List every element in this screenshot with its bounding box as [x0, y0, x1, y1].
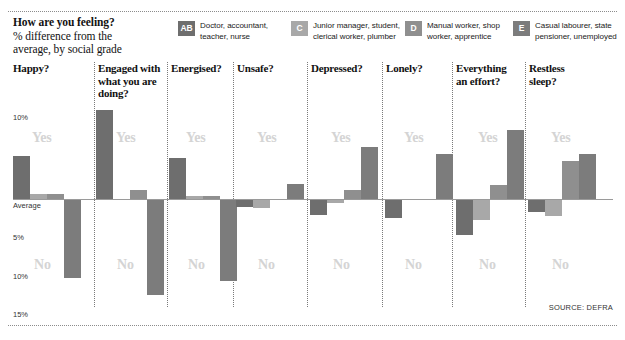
bar-ab	[169, 158, 186, 199]
bar-e	[64, 199, 81, 278]
legend-key-ab: AB	[178, 21, 195, 36]
panel-title-line: an effort?	[456, 75, 500, 87]
page-title: How are you feeling?	[13, 16, 178, 30]
bar-d	[490, 185, 507, 199]
panel-separator	[525, 62, 526, 307]
panel-separator	[382, 62, 383, 307]
bottom-divider	[8, 325, 617, 326]
bar-c	[473, 199, 490, 220]
legend-label-d-line1: Manual worker, shop	[427, 21, 500, 30]
legend-label-c-line1: Junior manager, student,	[313, 21, 400, 30]
bar-d	[562, 161, 579, 199]
legend-item-c[interactable]: C Junior manager, student, clerical work…	[291, 21, 409, 42]
watermark-no: No	[258, 257, 275, 273]
watermark-yes: Yes	[32, 130, 52, 146]
panel-title-line: Energised?	[171, 62, 222, 74]
panel-container: Happy?Engaged withwhat you aredoing?Ener…	[0, 62, 625, 320]
bar-ab	[236, 199, 253, 207]
bar-d	[344, 190, 361, 199]
panel-separator	[307, 62, 308, 307]
legend-label-ab-line2: teacher, nurse	[200, 32, 250, 41]
bar-ab	[456, 199, 473, 235]
legend-key-d: D	[405, 21, 422, 36]
panel-title-line: sleep?	[529, 75, 557, 87]
chart-subtitle-line1: % difference from the	[13, 30, 178, 44]
legend-label-d-line2: worker, apprentice	[427, 32, 491, 41]
legend-label-e-line2: pensioner, unemployed	[535, 32, 617, 41]
legend-item-ab[interactable]: AB Doctor, accountant, teacher, nurse	[178, 21, 296, 42]
bar-e	[361, 147, 378, 199]
source-note: SOURCE: DEFRA	[549, 303, 613, 312]
panel-title-line: Lonely?	[386, 62, 423, 74]
panel-title-line: doing?	[98, 87, 129, 99]
watermark-no: No	[479, 257, 496, 273]
bar-ab	[310, 199, 327, 215]
legend-item-d[interactable]: D Manual worker, shop worker, apprentice	[405, 21, 523, 42]
bar-d	[130, 190, 147, 199]
watermark-no: No	[188, 257, 205, 273]
panel-title-line: what you are	[98, 75, 157, 87]
watermark-no: No	[333, 257, 350, 273]
legend-label-c: Junior manager, student, clerical worker…	[313, 21, 409, 42]
watermark-no: No	[34, 257, 51, 273]
panel-title: Restlesssleep?	[529, 62, 617, 87]
panel-title-line: Restless	[529, 62, 565, 74]
watermark-no: No	[405, 257, 422, 273]
panel-separator	[94, 62, 95, 307]
bar-c	[545, 199, 562, 216]
bar-ab	[13, 156, 30, 199]
legend-key-e: E	[513, 21, 530, 36]
watermark-yes: Yes	[186, 130, 206, 146]
bar-e	[287, 184, 304, 199]
legend-label-d: Manual worker, shop worker, apprentice	[427, 21, 523, 42]
bar-c	[253, 199, 270, 208]
watermark-yes: Yes	[551, 130, 571, 146]
infographic-chart: How are you feeling? % difference from t…	[0, 0, 625, 340]
panel-title: Happy?	[13, 62, 101, 75]
legend-label-c-line2: clerical worker, plumber	[313, 32, 396, 41]
watermark-yes: Yes	[257, 130, 277, 146]
legend-key-c: C	[291, 21, 308, 36]
bar-e	[436, 154, 453, 199]
watermark-no: No	[117, 257, 134, 273]
panel-title-line: Depressed?	[311, 62, 363, 74]
legend-label-e: Casual labourer, state pensioner, unempl…	[535, 21, 625, 42]
watermark-yes: Yes	[404, 130, 424, 146]
legend-label-ab: Doctor, accountant, teacher, nurse	[200, 21, 296, 42]
baseline-average	[13, 199, 613, 200]
bar-ab	[385, 199, 402, 218]
panel-title-line: Everything	[456, 62, 507, 74]
bar-e	[579, 154, 596, 199]
legend-item-e[interactable]: E Casual labourer, state pensioner, unem…	[513, 21, 625, 42]
watermark-yes: Yes	[478, 130, 498, 146]
chart-subtitle-line2: average, by social grade	[13, 43, 178, 57]
bar-ab	[96, 110, 113, 199]
chart-header: How are you feeling? % difference from t…	[13, 16, 178, 57]
panel-title-line: Happy?	[13, 62, 49, 74]
panel-separator	[167, 62, 168, 307]
legend-label-e-line1: Casual labourer, state	[535, 21, 612, 30]
bar-ab	[528, 199, 545, 212]
legend-label-ab-line1: Doctor, accountant,	[200, 21, 268, 30]
bar-e	[507, 130, 524, 199]
panel-title-line: Engaged with	[98, 62, 160, 74]
legend: AB Doctor, accountant, teacher, nurse C …	[178, 21, 618, 55]
panel-title-line: Unsafe?	[237, 62, 274, 74]
watermark-no: No	[552, 257, 569, 273]
bar-e	[220, 199, 237, 281]
bar-e	[147, 199, 164, 295]
top-divider	[8, 11, 617, 12]
watermark-yes: Yes	[331, 130, 351, 146]
watermark-yes: Yes	[116, 130, 136, 146]
